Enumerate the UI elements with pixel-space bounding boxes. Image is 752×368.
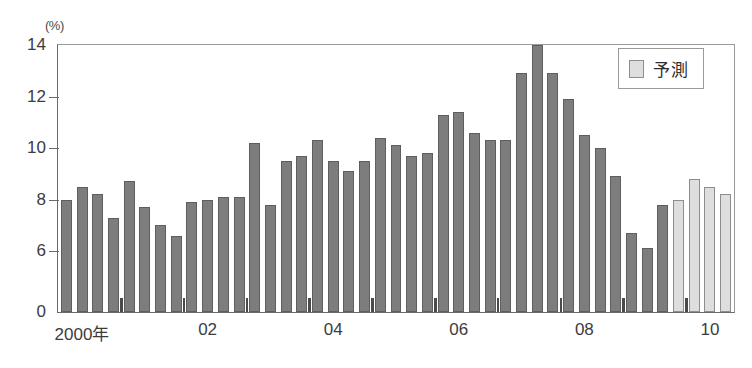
bar-actual <box>610 176 621 312</box>
bar-actual <box>626 233 637 312</box>
chart-container: (%) 141210860 2000年0204060810 予測 <box>0 0 752 368</box>
bar-actual <box>281 161 292 312</box>
bar-actual <box>296 156 307 312</box>
bar-actual <box>328 161 339 312</box>
bar-actual <box>469 133 480 312</box>
bar-actual <box>139 207 150 312</box>
bar-actual <box>312 140 323 312</box>
bar-actual <box>547 73 558 312</box>
x-axis-year-separator <box>560 298 563 312</box>
x-axis-year-separator <box>120 298 123 312</box>
bar-actual <box>202 200 213 313</box>
bar-actual <box>108 218 119 312</box>
bar-actual <box>642 248 653 312</box>
y-axis-tick-label: 0 <box>2 302 46 322</box>
x-axis-year-separator <box>434 298 437 312</box>
x-axis-tick-label: 04 <box>324 320 343 340</box>
bar-actual <box>265 205 276 312</box>
x-axis-tick-label: 02 <box>198 320 217 340</box>
bar-actual <box>579 135 590 312</box>
bar-forecast <box>673 200 684 313</box>
bar-actual <box>124 181 135 312</box>
legend-label-forecast: 予測 <box>653 56 689 81</box>
x-axis-year-separator <box>685 298 688 312</box>
bar-actual <box>453 112 464 312</box>
bar-actual <box>155 225 166 312</box>
legend: 予測 <box>618 48 704 89</box>
y-axis-tick <box>49 251 59 252</box>
bar-forecast <box>720 194 731 312</box>
bar-actual <box>186 202 197 312</box>
bar-actual <box>343 171 354 312</box>
bar-actual <box>485 140 496 312</box>
bar-actual <box>249 143 260 312</box>
bar-actual <box>563 99 574 312</box>
y-axis-tick <box>49 148 59 149</box>
x-axis-year-separator <box>183 298 186 312</box>
bar-actual <box>438 115 449 312</box>
x-axis-year-separator <box>308 298 311 312</box>
y-axis-tick <box>49 200 59 201</box>
x-axis-year-separator <box>371 298 374 312</box>
x-axis-tick-label: 08 <box>575 320 594 340</box>
bar-actual <box>92 194 103 312</box>
bar-forecast <box>689 179 700 312</box>
x-axis-year-separator <box>497 298 500 312</box>
bar-actual <box>359 161 370 312</box>
y-axis-unit-label: (%) <box>45 18 64 33</box>
x-axis-tick-label: 10 <box>700 320 719 340</box>
bar-actual <box>500 140 511 312</box>
bar-actual <box>406 156 417 312</box>
bar-actual <box>77 187 88 312</box>
x-axis-tick-label: 06 <box>449 320 468 340</box>
bar-actual <box>234 197 245 312</box>
y-axis-tick-label: 8 <box>2 190 46 210</box>
x-axis-tick-label: 2000年 <box>55 320 110 345</box>
legend-swatch-forecast-icon <box>629 60 644 78</box>
bar-actual <box>61 200 72 313</box>
y-axis-tick-label: 12 <box>2 87 46 107</box>
bar-actual <box>375 138 386 312</box>
bar-actual <box>516 73 527 312</box>
y-axis-tick-label: 14 <box>2 35 46 55</box>
x-axis-year-separator <box>622 298 625 312</box>
y-axis-tick-label: 10 <box>2 138 46 158</box>
bar-actual <box>657 205 668 312</box>
y-axis-tick <box>49 97 59 98</box>
bar-actual <box>171 236 182 312</box>
bar-actual <box>218 197 229 312</box>
x-axis-year-separator <box>246 298 249 312</box>
bar-actual <box>422 153 433 312</box>
bar-actual <box>595 148 606 312</box>
bar-forecast <box>704 187 715 312</box>
y-axis-tick-label: 6 <box>2 241 46 261</box>
bar-actual <box>391 145 402 312</box>
bar-actual <box>532 45 543 312</box>
